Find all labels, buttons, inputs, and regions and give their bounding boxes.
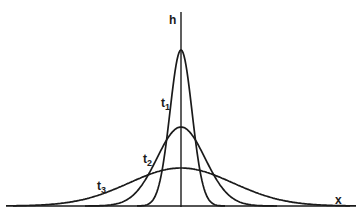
h-axis-label: h bbox=[169, 13, 176, 27]
label-t1: t1 bbox=[161, 96, 170, 112]
label-t2: t2 bbox=[143, 152, 152, 168]
diffusion-diagram: h x t1 t2 t3 bbox=[0, 0, 356, 221]
label-t3: t3 bbox=[97, 179, 106, 195]
x-axis-label: x bbox=[335, 193, 342, 207]
